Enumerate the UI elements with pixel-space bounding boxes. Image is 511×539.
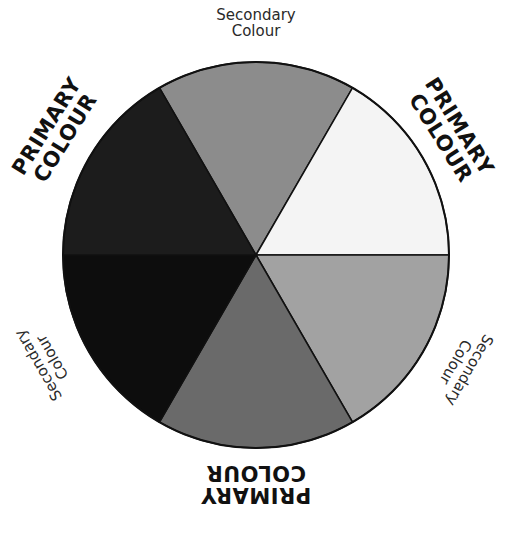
label-top-secondary: Secondary Colour bbox=[206, 8, 306, 40]
label-bottom-line1: PRIMARY bbox=[196, 484, 316, 506]
label-bottom-line2: COLOUR bbox=[196, 462, 316, 484]
label-bottom-primary: PRIMARY COLOUR bbox=[196, 462, 316, 506]
label-top-line2: Colour bbox=[206, 24, 306, 40]
